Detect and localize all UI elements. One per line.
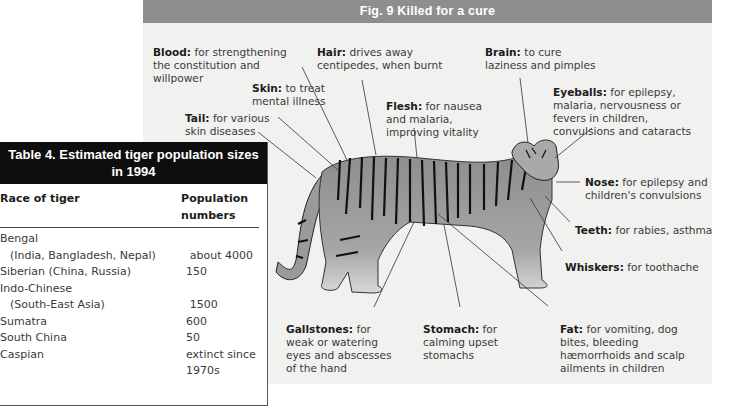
- table-row: (South-East Asia)1500: [0, 297, 267, 314]
- label-eyeballs: Eyeballs: for epilepsy, malaria, nervous…: [553, 86, 713, 138]
- table-row: Indo-Chinese: [0, 281, 267, 298]
- table-header-row: Race of tiger Population numbers: [0, 184, 259, 228]
- figure-title: Fig. 9 Killed for a cure: [143, 0, 712, 23]
- label-skin: Skin: to treat mental illness: [252, 82, 332, 108]
- table-row: Sumatra600: [0, 314, 267, 331]
- table-body: Bengal (India, Bangladesh, Nepal)about 4…: [0, 228, 267, 380]
- label-fat: Fat: for vomiting, dog bites, bleeding h…: [560, 323, 700, 375]
- label-teeth: Teeth: for rabies, asthma: [575, 224, 715, 237]
- label-stomach: Stomach: for calming upset stomachs: [423, 323, 533, 362]
- table-row: 1970s: [0, 363, 267, 380]
- column-header-race: Race of tiger: [0, 190, 181, 224]
- label-flesh: Flesh: for nausea and malaria, improving…: [386, 100, 504, 139]
- table-row: Bengal: [0, 231, 267, 248]
- table-row: Caspianextinct since: [0, 347, 267, 364]
- table-row: (India, Bangladesh, Nepal)about 4000: [0, 248, 267, 265]
- label-hair: Hair: drives away centipedes, when burnt: [317, 46, 447, 72]
- label-brain: Brain: to cure laziness and pimples: [485, 46, 605, 72]
- label-nose: Nose: for epilepsy and children's convul…: [585, 176, 715, 202]
- label-gallstones: Gallstones: for weak or watering eyes an…: [286, 323, 398, 375]
- table-row: Siberian (China, Russia)150: [0, 264, 267, 281]
- table-title: Table 4. Estimated tiger population size…: [0, 142, 267, 184]
- label-blood: Blood: for strengthening the constitutio…: [153, 46, 303, 85]
- label-whiskers: Whiskers: for toothache: [565, 261, 705, 274]
- label-tail: Tail: for various skin diseases: [185, 112, 285, 138]
- population-table: Table 4. Estimated tiger population size…: [0, 142, 268, 406]
- column-header-population: Population numbers: [181, 190, 259, 224]
- table-row: South China50: [0, 330, 267, 347]
